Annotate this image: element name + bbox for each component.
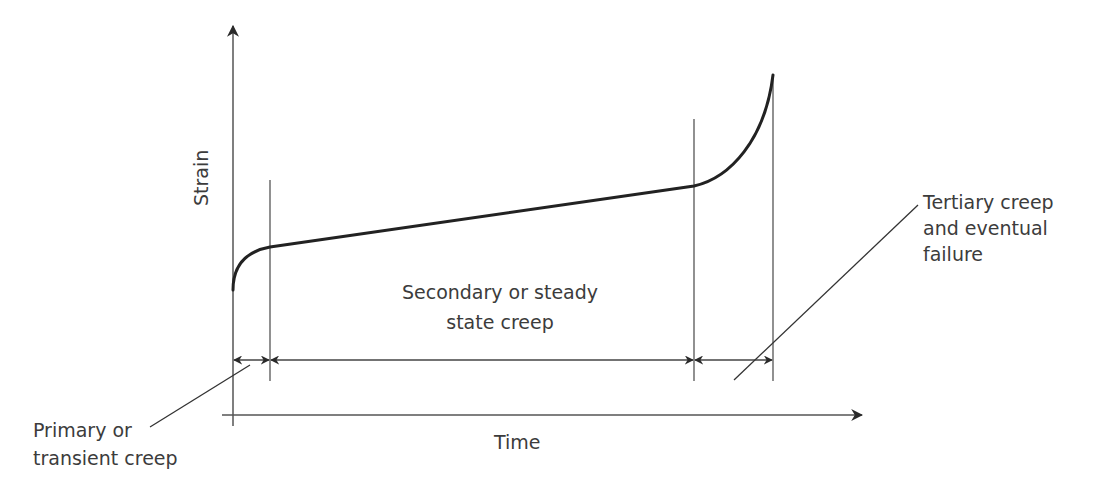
tertiary-creep-label-line1: Tertiary creep [923, 190, 1054, 214]
creep-curve [233, 75, 773, 290]
secondary-creep-label-line2: state creep [380, 310, 620, 334]
tertiary-creep-label-line2: and eventual [923, 216, 1048, 240]
y-axis-label: Strain [190, 150, 212, 206]
primary-leader-line [150, 365, 250, 427]
primary-creep-label-line1: Primary or [33, 418, 132, 442]
tertiary-leader-line [734, 205, 918, 380]
secondary-creep-label-line1: Secondary or steady [380, 280, 620, 304]
tertiary-creep-label-line3: failure [923, 242, 983, 266]
x-axis-label: Time [494, 430, 541, 454]
primary-creep-label-line2: transient creep [33, 446, 178, 470]
